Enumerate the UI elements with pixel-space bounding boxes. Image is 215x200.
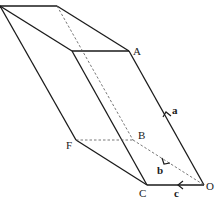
vector-label-c: c (174, 187, 179, 199)
vertex-label-c: C (139, 187, 146, 199)
vertex-label-f: F (66, 139, 72, 151)
edge-top-left (0, 6, 72, 51)
edge-left-back-vertical (0, 6, 76, 140)
edge-top-right (57, 6, 129, 51)
edge-hidden-vertical (57, 6, 133, 140)
parallelepiped-diagram: A B F C O a b c (0, 0, 215, 200)
vector-arrows (162, 112, 183, 189)
vertex-label-o: O (206, 180, 214, 192)
vector-label-a: a (172, 104, 178, 116)
vector-label-b: b (157, 164, 163, 176)
edge-front-left-vertical (72, 51, 147, 185)
edge-fc (76, 140, 147, 185)
visible-edges (0, 6, 204, 185)
hidden-edges (57, 6, 204, 185)
arrow-b-icon (162, 158, 170, 164)
vertex-label-a: A (133, 45, 141, 57)
vertex-label-b: B (138, 129, 145, 141)
edge-a (129, 51, 204, 185)
